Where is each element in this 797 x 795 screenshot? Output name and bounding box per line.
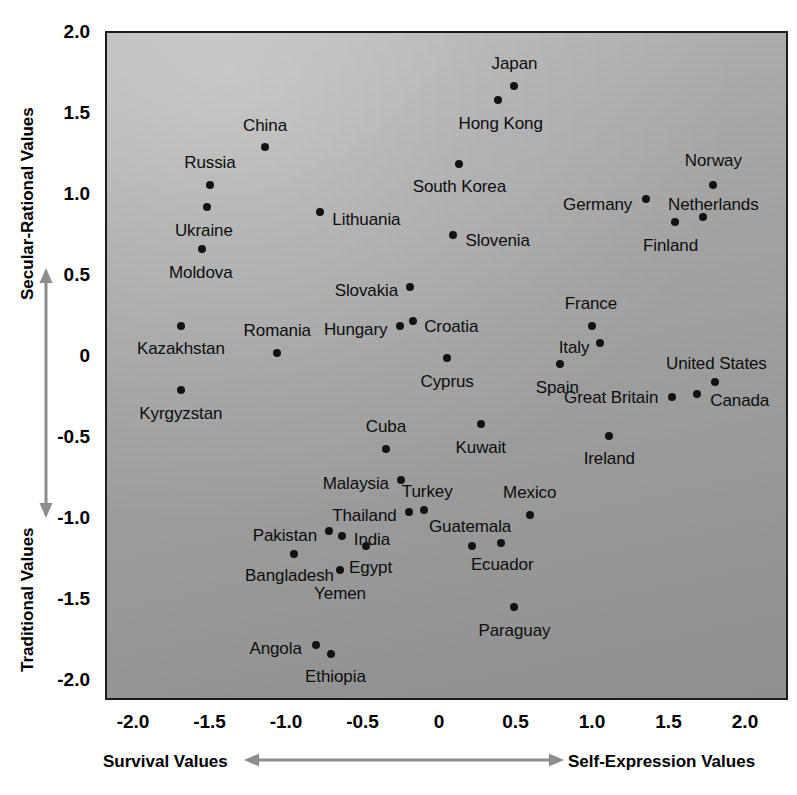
- data-point: [177, 386, 185, 394]
- data-point: [510, 82, 518, 90]
- horizontal-axis-arrow-icon: [244, 752, 564, 768]
- point-label: Cyprus: [420, 372, 473, 389]
- point-label: Cuba: [366, 418, 406, 435]
- data-point: [497, 539, 505, 547]
- point-label: Ethiopia: [305, 667, 366, 684]
- data-point: [510, 603, 518, 611]
- data-point: [261, 143, 269, 151]
- point-label: Ireland: [584, 450, 635, 467]
- x-tick-label: 1.5: [655, 711, 681, 733]
- point-label: Ukraine: [175, 222, 233, 239]
- data-point: [693, 390, 701, 398]
- data-point: [177, 322, 185, 330]
- data-point: [362, 542, 370, 550]
- x-axis-title-survival: Survival Values: [103, 752, 228, 772]
- point-label: Bangladesh: [245, 567, 334, 584]
- point-label: Slovakia: [335, 281, 398, 298]
- point-label: Romania: [244, 322, 311, 339]
- data-point: [605, 432, 613, 440]
- x-tick-label: 0.5: [502, 711, 528, 733]
- point-label: Croatia: [424, 317, 478, 334]
- y-tick-label: 0.5: [64, 264, 90, 286]
- scatter-plot-area: JapanHong KongChinaSouth KoreaNorwayRuss…: [105, 31, 788, 700]
- point-label: Netherlands: [668, 196, 759, 213]
- point-label: Turkey: [402, 482, 453, 499]
- data-point: [409, 317, 417, 325]
- point-label: Russia: [184, 153, 235, 170]
- x-tick-label: -1.5: [193, 711, 226, 733]
- data-point: [556, 360, 564, 368]
- data-point: [449, 231, 457, 239]
- y-tick-label: -1.5: [57, 588, 90, 610]
- data-point: [443, 354, 451, 362]
- point-label: Yemen: [314, 584, 366, 601]
- point-label: China: [243, 116, 287, 133]
- data-point: [455, 160, 463, 168]
- point-label: Paraguay: [478, 622, 550, 639]
- data-point: [405, 508, 413, 516]
- data-point: [420, 506, 428, 514]
- data-point: [477, 420, 485, 428]
- data-point: [325, 527, 333, 535]
- cultural-map-chart: 2.01.51.00.50-0.5-1.0-1.5-2.0 -2.0-1.5-1…: [0, 0, 797, 795]
- data-point: [273, 349, 281, 357]
- point-label: Lithuania: [332, 210, 400, 227]
- data-point: [338, 532, 346, 540]
- point-label: Italy: [559, 338, 590, 355]
- point-label: Great Britain: [564, 388, 658, 405]
- point-label: France: [565, 294, 617, 311]
- point-label: Angola: [249, 639, 301, 656]
- point-label: Kyrgyzstan: [139, 405, 222, 422]
- point-label: Moldova: [169, 264, 233, 281]
- point-label: Norway: [685, 152, 742, 169]
- point-label: Kuwait: [456, 439, 506, 456]
- data-point: [709, 181, 717, 189]
- point-label: Hungary: [324, 320, 388, 337]
- point-label: South Korea: [413, 178, 506, 195]
- point-label: Japan: [492, 55, 538, 72]
- data-point: [596, 339, 604, 347]
- data-point: [671, 218, 679, 226]
- data-point: [382, 445, 390, 453]
- data-point: [336, 566, 344, 574]
- point-label: Slovenia: [465, 231, 529, 248]
- y-tick-label: 1.5: [64, 102, 90, 124]
- vertical-axis-arrow-icon: [38, 268, 54, 518]
- data-point: [588, 322, 596, 330]
- data-point: [396, 322, 404, 330]
- data-point: [203, 203, 211, 211]
- point-label: Ecuador: [471, 555, 534, 572]
- point-label: Canada: [710, 392, 769, 409]
- y-tick-label: -2.0: [57, 669, 90, 691]
- point-label: Finland: [643, 236, 698, 253]
- data-point: [327, 650, 335, 658]
- x-tick-label: 0: [434, 711, 445, 733]
- y-axis-title-secular-rational: Secular-Rational Values: [18, 107, 38, 300]
- data-point: [668, 393, 676, 401]
- point-label: Malaysia: [323, 474, 389, 491]
- point-label: Thailand: [332, 507, 396, 524]
- data-point: [406, 283, 414, 291]
- y-tick-label: -0.5: [57, 426, 90, 448]
- data-point: [206, 181, 214, 189]
- point-label: Pakistan: [253, 526, 317, 543]
- point-label: Guatemala: [429, 518, 511, 535]
- point-label: Egypt: [349, 558, 392, 575]
- y-tick-label: -1.0: [57, 507, 90, 529]
- point-label: United States: [666, 354, 767, 371]
- data-point: [312, 641, 320, 649]
- x-axis-title-self-expression: Self-Expression Values: [568, 752, 755, 772]
- point-label: Kazakhstan: [137, 340, 225, 357]
- data-point: [699, 213, 707, 221]
- point-label: India: [354, 531, 390, 548]
- x-tick-label: -2.0: [117, 711, 150, 733]
- point-label: Hong Kong: [459, 115, 543, 132]
- data-point: [711, 378, 719, 386]
- data-point: [494, 96, 502, 104]
- data-point: [316, 208, 324, 216]
- point-label: Germany: [563, 196, 632, 213]
- x-tick-label: 1.0: [579, 711, 605, 733]
- x-tick-label: -0.5: [346, 711, 379, 733]
- data-point: [198, 245, 206, 253]
- x-tick-label: -1.0: [270, 711, 303, 733]
